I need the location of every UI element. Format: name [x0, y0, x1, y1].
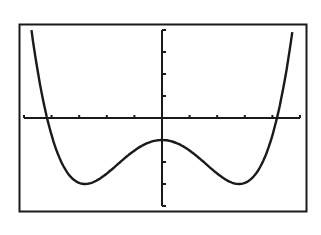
axes — [24, 30, 300, 206]
calculator-graph-screen — [0, 0, 321, 235]
